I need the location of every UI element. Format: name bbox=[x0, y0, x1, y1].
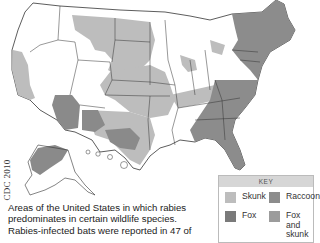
fox-and-skunk-swatch bbox=[269, 211, 280, 222]
key-item-fox: Fox bbox=[225, 211, 256, 222]
map-key: KEY Skunk Raccoon Fox Fox and skunk bbox=[218, 175, 314, 243]
key-item-raccoon: Raccoon bbox=[269, 192, 320, 203]
fox-arizona bbox=[52, 95, 80, 130]
fox-swatch bbox=[225, 211, 236, 222]
skunk-swatch bbox=[225, 192, 236, 203]
map-caption: Areas of the United States in which rabi… bbox=[8, 202, 198, 236]
key-item-fox-and-skunk: Fox and skunk bbox=[269, 211, 313, 240]
key-item-skunk: Skunk bbox=[225, 192, 266, 203]
raccoon-swatch bbox=[269, 192, 280, 203]
credit-label: CDC 2010 bbox=[2, 159, 12, 200]
key-title: KEY bbox=[219, 176, 313, 187]
